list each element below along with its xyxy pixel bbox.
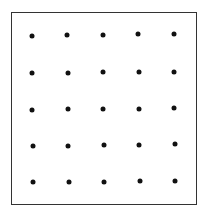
grid-dot — [172, 70, 177, 75]
grid-dot — [30, 108, 35, 113]
grid-dot — [31, 180, 36, 185]
grid-dot — [102, 180, 107, 185]
grid-dot — [137, 70, 142, 75]
grid-dot — [137, 107, 142, 112]
grid-dot — [30, 71, 35, 76]
grid-dot — [66, 144, 71, 149]
grid-dot — [31, 144, 36, 149]
grid-dot — [101, 107, 106, 112]
grid-dot — [66, 107, 71, 112]
grid-dot — [173, 142, 178, 147]
grid-dot — [102, 143, 107, 148]
grid-dot — [172, 32, 177, 37]
grid-dot — [66, 71, 71, 76]
grid-dot — [136, 32, 141, 37]
grid-dot — [101, 33, 106, 38]
grid-dot — [137, 143, 142, 148]
grid-dot — [30, 34, 35, 39]
grid-dot — [101, 70, 106, 75]
grid-dot — [173, 179, 178, 184]
grid-dot — [172, 106, 177, 111]
grid-dot — [65, 33, 70, 38]
grid-dot — [67, 180, 72, 185]
grid-dot — [138, 179, 143, 184]
